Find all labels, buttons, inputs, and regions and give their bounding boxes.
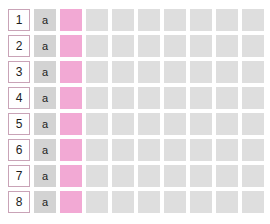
- empty-cell[interactable]: [86, 9, 108, 31]
- empty-cell[interactable]: [216, 35, 238, 57]
- empty-cell[interactable]: [164, 35, 186, 57]
- empty-cell[interactable]: [190, 35, 212, 57]
- empty-cell[interactable]: [190, 9, 212, 31]
- letter-cell[interactable]: a: [34, 113, 56, 135]
- empty-cell[interactable]: [112, 87, 134, 109]
- empty-cell[interactable]: [242, 139, 264, 161]
- row-number-cell[interactable]: 7: [8, 165, 30, 187]
- highlighted-cell[interactable]: [60, 9, 82, 31]
- cell-grid: 1a2a3a4a5a6a7a8a: [8, 9, 264, 213]
- row-number-cell[interactable]: 6: [8, 139, 30, 161]
- empty-cell[interactable]: [216, 87, 238, 109]
- table-row: 2a: [8, 35, 264, 57]
- highlighted-cell[interactable]: [60, 113, 82, 135]
- empty-cell[interactable]: [138, 87, 160, 109]
- empty-cell[interactable]: [112, 9, 134, 31]
- empty-cell[interactable]: [190, 87, 212, 109]
- empty-cell[interactable]: [164, 191, 186, 213]
- empty-cell[interactable]: [138, 191, 160, 213]
- empty-cell[interactable]: [164, 87, 186, 109]
- table-row: 5a: [8, 113, 264, 135]
- empty-cell[interactable]: [112, 191, 134, 213]
- table-row: 7a: [8, 165, 264, 187]
- table-row: 8a: [8, 191, 264, 213]
- empty-cell[interactable]: [216, 139, 238, 161]
- empty-cell[interactable]: [242, 9, 264, 31]
- empty-cell[interactable]: [86, 165, 108, 187]
- empty-cell[interactable]: [138, 61, 160, 83]
- empty-cell[interactable]: [86, 61, 108, 83]
- highlighted-cell[interactable]: [60, 139, 82, 161]
- empty-cell[interactable]: [86, 113, 108, 135]
- empty-cell[interactable]: [86, 87, 108, 109]
- table-row: 6a: [8, 139, 264, 161]
- letter-cell[interactable]: a: [34, 191, 56, 213]
- empty-cell[interactable]: [190, 61, 212, 83]
- row-number-cell[interactable]: 3: [8, 61, 30, 83]
- empty-cell[interactable]: [216, 165, 238, 187]
- empty-cell[interactable]: [216, 61, 238, 83]
- table-row: 1a: [8, 9, 264, 31]
- empty-cell[interactable]: [86, 191, 108, 213]
- row-number-cell[interactable]: 2: [8, 35, 30, 57]
- empty-cell[interactable]: [86, 139, 108, 161]
- empty-cell[interactable]: [138, 139, 160, 161]
- row-number-cell[interactable]: 1: [8, 9, 30, 31]
- highlighted-cell[interactable]: [60, 191, 82, 213]
- empty-cell[interactable]: [164, 113, 186, 135]
- empty-cell[interactable]: [86, 35, 108, 57]
- letter-cell[interactable]: a: [34, 87, 56, 109]
- empty-cell[interactable]: [216, 9, 238, 31]
- empty-cell[interactable]: [138, 9, 160, 31]
- empty-cell[interactable]: [164, 165, 186, 187]
- empty-cell[interactable]: [138, 165, 160, 187]
- letter-cell[interactable]: a: [34, 9, 56, 31]
- empty-cell[interactable]: [242, 113, 264, 135]
- row-number-cell[interactable]: 5: [8, 113, 30, 135]
- empty-cell[interactable]: [112, 61, 134, 83]
- letter-cell[interactable]: a: [34, 165, 56, 187]
- empty-cell[interactable]: [112, 35, 134, 57]
- empty-cell[interactable]: [164, 139, 186, 161]
- row-number-cell[interactable]: 4: [8, 87, 30, 109]
- row-number-cell[interactable]: 8: [8, 191, 30, 213]
- highlighted-cell[interactable]: [60, 87, 82, 109]
- empty-cell[interactable]: [190, 165, 212, 187]
- empty-cell[interactable]: [190, 139, 212, 161]
- empty-cell[interactable]: [242, 87, 264, 109]
- table-row: 3a: [8, 61, 264, 83]
- letter-cell[interactable]: a: [34, 139, 56, 161]
- empty-cell[interactable]: [242, 61, 264, 83]
- empty-cell[interactable]: [112, 165, 134, 187]
- empty-cell[interactable]: [112, 113, 134, 135]
- letter-cell[interactable]: a: [34, 61, 56, 83]
- empty-cell[interactable]: [242, 165, 264, 187]
- empty-cell[interactable]: [112, 139, 134, 161]
- empty-cell[interactable]: [242, 35, 264, 57]
- empty-cell[interactable]: [190, 113, 212, 135]
- empty-cell[interactable]: [216, 113, 238, 135]
- empty-cell[interactable]: [138, 35, 160, 57]
- empty-cell[interactable]: [242, 191, 264, 213]
- grid-canvas: 1a2a3a4a5a6a7a8a: [0, 0, 270, 224]
- empty-cell[interactable]: [164, 9, 186, 31]
- empty-cell[interactable]: [190, 191, 212, 213]
- table-row: 4a: [8, 87, 264, 109]
- empty-cell[interactable]: [216, 191, 238, 213]
- highlighted-cell[interactable]: [60, 165, 82, 187]
- empty-cell[interactable]: [138, 113, 160, 135]
- empty-cell[interactable]: [164, 61, 186, 83]
- letter-cell[interactable]: a: [34, 35, 56, 57]
- highlighted-cell[interactable]: [60, 35, 82, 57]
- highlighted-cell[interactable]: [60, 61, 82, 83]
